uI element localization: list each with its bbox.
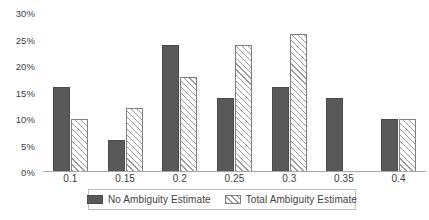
legend-item[interactable]: No Ambiguity Estimate (87, 194, 211, 205)
y-tick-label: 15% (16, 87, 35, 98)
bar-group (371, 13, 426, 172)
y-axis: 0%5%10%15%20%25%30% (0, 0, 40, 185)
x-axis-line (43, 171, 426, 172)
bar-group (317, 13, 372, 172)
y-tick-label: 10% (16, 114, 35, 125)
bar-group (262, 13, 317, 172)
bar-no-ambiguity (162, 45, 179, 172)
bar-group (152, 13, 207, 172)
x-tick-label: 0.1 (43, 173, 98, 189)
bar-total-ambiguity (180, 77, 197, 172)
legend-swatch-icon (225, 195, 241, 204)
x-tick-label: 0.25 (207, 173, 262, 189)
legend-item[interactable]: Total Ambiguity Estimate (225, 194, 357, 205)
bar-no-ambiguity (53, 87, 70, 172)
y-tick-label: 5% (21, 140, 35, 151)
x-tick-label: 0.2 (152, 173, 207, 189)
bar-chart: 0%5%10%15%20%25%30% 0.10.150.20.250.30.3… (0, 0, 429, 220)
bar-total-ambiguity (399, 119, 416, 172)
bar-no-ambiguity (381, 119, 398, 172)
bar-total-ambiguity (126, 108, 143, 172)
legend-swatch-icon (87, 195, 103, 204)
bar-no-ambiguity (217, 98, 234, 172)
bar-groups (43, 13, 426, 172)
x-tick-label: 0.35 (317, 173, 372, 189)
chart-legend: No Ambiguity EstimateTotal Ambiguity Est… (88, 189, 356, 210)
x-tick-label: 0.15 (98, 173, 153, 189)
bar-no-ambiguity (272, 87, 289, 172)
y-tick-label: 20% (16, 61, 35, 72)
bar-total-ambiguity (290, 34, 307, 172)
x-tick-label: 0.4 (371, 173, 426, 189)
bar-group (207, 13, 262, 172)
x-tick-label: 0.3 (262, 173, 317, 189)
y-tick-label: 25% (16, 34, 35, 45)
legend-label: Total Ambiguity Estimate (246, 194, 357, 205)
y-tick-label: 0% (21, 167, 35, 178)
legend-label: No Ambiguity Estimate (108, 194, 211, 205)
bar-group (98, 13, 153, 172)
bar-no-ambiguity (326, 98, 343, 172)
bar-group (43, 13, 98, 172)
plot-area (43, 13, 426, 172)
bar-total-ambiguity (235, 45, 252, 172)
x-axis: 0.10.150.20.250.30.350.4 (43, 173, 426, 189)
y-tick-label: 30% (16, 8, 35, 19)
bar-total-ambiguity (71, 119, 88, 172)
bar-no-ambiguity (108, 140, 125, 172)
